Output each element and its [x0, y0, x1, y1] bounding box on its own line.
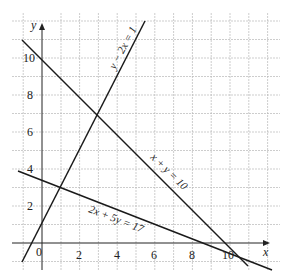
label-x-plus-y-eq-10: x + y = 10 [148, 150, 191, 192]
x-tick-6: 6 [151, 248, 157, 262]
origin-label: 0 [36, 245, 42, 259]
x-tick-10: 10 [222, 248, 234, 262]
y-tick-8: 8 [27, 88, 33, 102]
graph: 0 2 4 6 8 10 2 4 6 8 10 y x y − 2x = 1 x… [0, 0, 287, 277]
x-tick-4: 4 [114, 248, 120, 262]
y-tick-4: 4 [27, 162, 33, 176]
x-tick-8: 8 [189, 248, 195, 262]
y-axis-arrow-icon [39, 23, 45, 30]
y-axis-label: y [30, 18, 37, 32]
y-tick-10: 10 [23, 51, 35, 65]
y-tick-2: 2 [27, 199, 33, 213]
x-axis-label: x [262, 245, 269, 259]
label-2x-plus-5y-eq-17: 2x + 5y = 17 [87, 203, 146, 235]
equation-labels: y − 2x = 1 x + y = 10 2x + 5y = 17 [87, 24, 191, 235]
tick-labels: 0 2 4 6 8 10 2 4 6 8 10 y x [23, 18, 269, 262]
grid [12, 13, 280, 270]
x-tick-2: 2 [76, 248, 82, 262]
y-tick-6: 6 [27, 125, 33, 139]
